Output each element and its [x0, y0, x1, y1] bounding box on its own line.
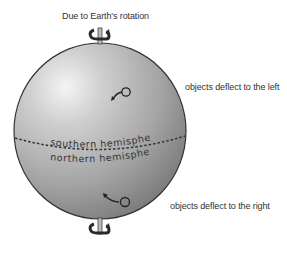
- coriolis-diagram: southern hemisphere northern hemisphere: [0, 0, 287, 253]
- title-label: Due to Earth's rotation: [62, 11, 149, 21]
- rotation-axis-icon: [90, 28, 110, 44]
- rotation-axis-icon: [90, 218, 110, 234]
- globe: [14, 43, 186, 219]
- deflect-right-annotation: objects deflect to the right: [170, 201, 270, 211]
- deflect-left-annotation: objects deflect to the left: [185, 82, 279, 92]
